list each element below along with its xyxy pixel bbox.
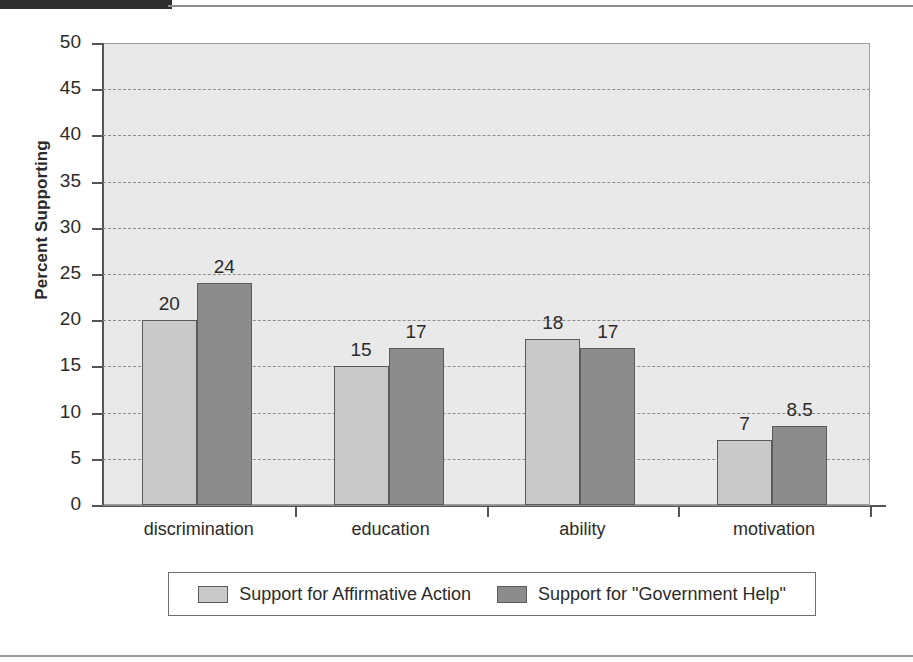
x-axis-tick-mark (295, 506, 297, 517)
legend-swatch-icon (198, 586, 228, 603)
y-axis-tick-label: 0 (21, 493, 81, 515)
gridline (103, 89, 870, 90)
y-axis-tick-mark (92, 182, 103, 184)
y-axis-tick-mark (92, 320, 103, 322)
x-axis-tick-mark (678, 506, 680, 517)
bar-value-label: 17 (568, 321, 647, 343)
gridline (103, 228, 870, 229)
y-axis-tick-mark (92, 135, 103, 137)
bar (142, 320, 197, 505)
y-axis-tick-mark (92, 459, 103, 461)
y-axis-tick-label: 10 (21, 401, 81, 423)
y-axis-tick-label: 40 (21, 123, 81, 145)
y-axis-tick-label: 45 (21, 77, 81, 99)
y-axis-tick-mark (92, 228, 103, 230)
bar (389, 348, 444, 505)
bar (197, 283, 252, 505)
x-axis-category-label: ability (487, 519, 679, 540)
y-axis-tick-label: 25 (21, 262, 81, 284)
x-axis-category-label: education (295, 519, 487, 540)
bar-value-label: 24 (185, 256, 264, 278)
y-axis-tick-label: 50 (21, 31, 81, 53)
y-axis-tick-mark (92, 366, 103, 368)
y-axis-tick-mark (92, 43, 103, 45)
bar (334, 366, 389, 505)
bar (580, 348, 635, 505)
gridline (103, 135, 870, 136)
bar-value-label: 8.5 (760, 399, 839, 421)
bar (717, 440, 772, 505)
x-axis-tick-mark (870, 506, 872, 517)
legend-swatch-icon (497, 586, 527, 603)
y-axis-tick-label: 35 (21, 170, 81, 192)
chart-legend[interactable]: Support for Affirmative ActionSupport fo… (168, 572, 816, 616)
y-axis-tick-mark (92, 505, 103, 507)
y-axis-tick-label: 5 (21, 447, 81, 469)
y-axis-tick-label: 30 (21, 216, 81, 238)
y-axis-tick-mark (92, 274, 103, 276)
legend-label: Support for "Government Help" (538, 584, 786, 605)
legend-entry[interactable]: Support for Affirmative Action (198, 584, 471, 605)
bar-chart-figure: Percent Supporting 50454035302520151050 … (0, 0, 913, 662)
y-axis-tick-label: 20 (21, 308, 81, 330)
legend-entry[interactable]: Support for "Government Help" (497, 584, 786, 605)
bar (772, 426, 827, 505)
legend-label: Support for Affirmative Action (239, 584, 471, 605)
bar-value-label: 17 (377, 321, 456, 343)
y-axis-tick-mark (92, 413, 103, 415)
x-axis-category-label: discrimination (103, 519, 295, 540)
x-axis-category-label: motivation (678, 519, 870, 540)
page-bottom-divider (0, 655, 913, 657)
y-axis-tick-mark (92, 89, 103, 91)
bar (525, 339, 580, 505)
gridline (103, 182, 870, 183)
y-axis-tick-label: 15 (21, 354, 81, 376)
x-axis-tick-mark (487, 506, 489, 517)
